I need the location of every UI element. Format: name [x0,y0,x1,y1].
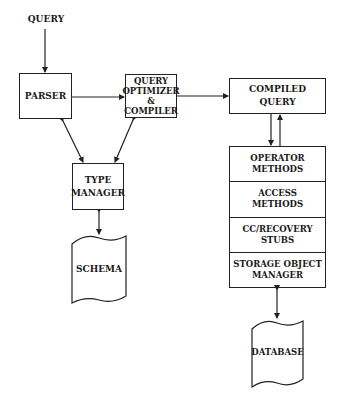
compiled-query-box: COMPILED QUERY [229,78,326,114]
optimizer-compiler-label: QUERY OPTIMIZER & COMPILER [122,76,179,116]
arrow-parser-typemanager [63,121,83,162]
database-label: DATABASE [250,347,305,357]
cc-recovery-stubs-layer: CC/RECOVERY STUBS [230,218,325,253]
type-manager-box: TYPE MANAGER [72,163,124,210]
cc-recovery-stubs-label: CC/RECOVERY STUBS [242,224,312,246]
type-manager-label: TYPE MANAGER [71,174,125,200]
parser-box: PARSER [19,73,72,119]
optimizer-compiler-box: QUERY OPTIMIZER & COMPILER [125,74,177,118]
runtime-layer-stack: OPERATOR METHODS ACCESS METHODS CC/RECOV… [229,146,326,288]
arrow-optimizer-typemanager [115,120,133,162]
query-input-label: QUERY [27,14,65,25]
operator-methods-layer: OPERATOR METHODS [230,147,325,182]
schema-label: SCHEMA [72,264,126,274]
access-methods-label: ACCESS METHODS [252,188,303,210]
operator-methods-label: OPERATOR METHODS [250,153,304,175]
compiled-query-label: COMPILED QUERY [249,83,306,109]
parser-label: PARSER [25,91,66,102]
storage-object-manager-layer: STORAGE OBJECT MANAGER [230,253,325,287]
storage-object-manager-label: STORAGE OBJECT MANAGER [233,259,321,281]
access-methods-layer: ACCESS METHODS [230,182,325,217]
